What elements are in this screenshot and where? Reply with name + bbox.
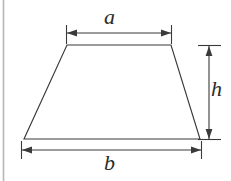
label-height-h: h xyxy=(211,78,222,100)
top-dimension-arrow-right xyxy=(161,30,171,37)
top-width-dimension xyxy=(67,25,172,44)
label-bottom-side-b: b xyxy=(104,152,115,174)
trapezoid-figure: a b h xyxy=(0,0,231,181)
label-top-side-a: a xyxy=(104,6,115,28)
top-dimension-arrow-left xyxy=(67,30,77,37)
height-dimension-arrow-top xyxy=(206,46,213,56)
bottom-dimension-arrow-right xyxy=(191,147,201,154)
height-dimension-arrow-bottom xyxy=(206,129,213,139)
bottom-dimension-arrow-left xyxy=(22,147,32,154)
figure-canvas xyxy=(0,0,231,181)
trapezoid-outline xyxy=(24,45,200,139)
